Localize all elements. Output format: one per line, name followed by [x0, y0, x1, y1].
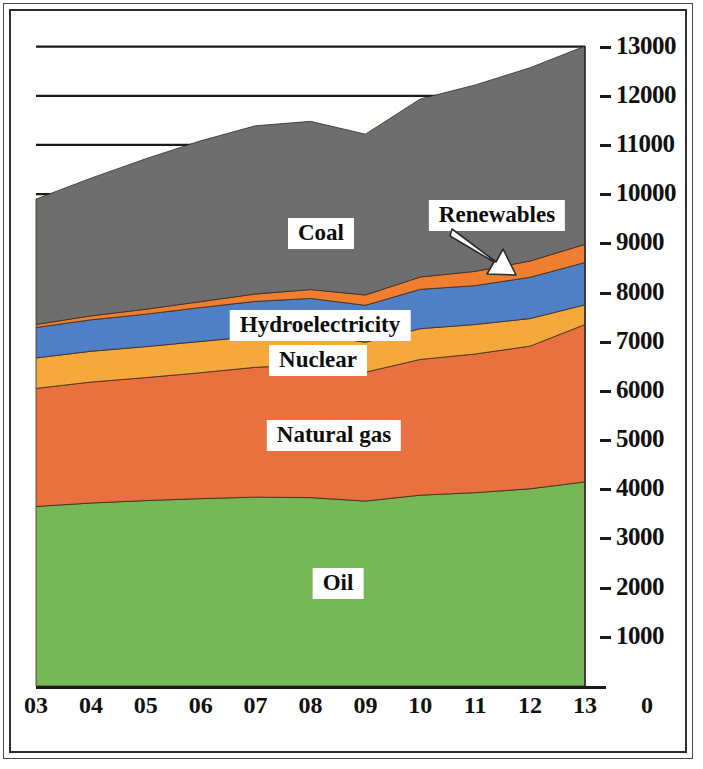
y-tick-mark: [600, 242, 611, 245]
area-band-oil: [36, 482, 585, 686]
y-tick-label: 13000: [616, 32, 676, 60]
x-tick-label: 06: [189, 692, 213, 719]
y-tick-label: 8000: [616, 278, 664, 306]
y-axis: 1300012000110001000090008000700060005000…: [600, 22, 695, 692]
y-tick-mark: [600, 390, 611, 393]
x-axis-line: [36, 686, 606, 689]
x-tick-label: 09: [353, 692, 377, 719]
series-label-renewables: Renewables: [429, 200, 565, 231]
y-tick-mark: [600, 193, 611, 196]
x-tick-label: 10: [408, 692, 432, 719]
x-tick-label: 03: [24, 692, 48, 719]
y-tick-mark: [600, 95, 611, 98]
y-tick-label: 9000: [616, 228, 664, 256]
x-tick-label: 07: [244, 692, 268, 719]
y-tick-mark: [600, 46, 611, 49]
y-tick-mark: [600, 341, 611, 344]
series-label-hydroelectricity: Hydroelectricity: [230, 310, 411, 341]
y-tick-label: 3000: [616, 523, 664, 551]
y-tick-mark: [600, 439, 611, 442]
y-tick-mark: [600, 587, 611, 590]
x-tick-label: 05: [134, 692, 158, 719]
y-tick-mark: [600, 636, 611, 639]
x-tick-label: 0: [641, 692, 653, 719]
y-tick-label: 10000: [616, 179, 676, 207]
series-label-nuclear: Nuclear: [269, 345, 367, 376]
y-tick-label: 11000: [616, 130, 675, 158]
y-tick-label: 5000: [616, 425, 664, 453]
y-tick-label: 4000: [616, 474, 664, 502]
y-tick-label: 12000: [616, 81, 676, 109]
y-tick-mark: [600, 144, 611, 147]
x-tick-label: 12: [518, 692, 542, 719]
y-tick-mark: [600, 537, 611, 540]
series-label-coal: Coal: [288, 218, 354, 249]
y-tick-label: 6000: [616, 376, 664, 404]
y-tick-label: 1000: [616, 622, 664, 650]
x-tick-label: 04: [79, 692, 103, 719]
chart-container: 1300012000110001000090008000700060005000…: [0, 0, 703, 769]
x-axis: 03040506070809101112130: [0, 692, 703, 732]
y-tick-label: 2000: [616, 573, 664, 601]
y-tick-label: 7000: [616, 327, 664, 355]
series-label-natural-gas: Natural gas: [267, 420, 401, 451]
x-tick-label: 13: [573, 692, 597, 719]
y-tick-mark: [600, 488, 611, 491]
x-tick-label: 08: [299, 692, 323, 719]
series-label-oil: Oil: [313, 568, 364, 599]
y-tick-mark: [600, 292, 611, 295]
x-tick-label: 11: [464, 692, 487, 719]
